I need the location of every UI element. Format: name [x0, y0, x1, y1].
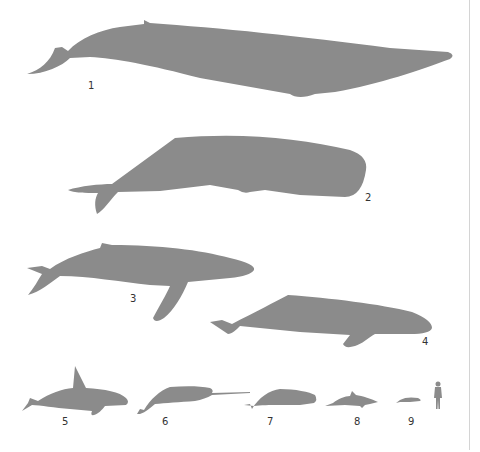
label-9: 9: [408, 417, 414, 427]
sperm-whale-silhouette-icon: [68, 136, 366, 214]
orca-silhouette-icon: [22, 366, 128, 415]
label-2: 2: [365, 193, 371, 203]
label-4: 4: [422, 337, 428, 347]
label-7: 7: [267, 417, 273, 427]
label-3: 3: [130, 294, 136, 304]
label-6: 6: [162, 417, 168, 427]
narwhal-silhouette-icon: [137, 386, 250, 414]
porpoise-silhouette-icon: [396, 397, 421, 403]
right-whale-silhouette-icon: [210, 295, 432, 347]
dolphin-silhouette-icon: [325, 391, 378, 408]
beluga-silhouette-icon: [244, 389, 316, 409]
vertical-divider: [469, 0, 470, 450]
humpback-whale-silhouette-icon: [27, 243, 254, 321]
label-8: 8: [354, 417, 360, 427]
human-silhouette-icon: [434, 382, 442, 410]
label-1: 1: [88, 81, 94, 91]
whale-size-comparison-figure: [0, 0, 480, 452]
label-5: 5: [62, 417, 68, 427]
